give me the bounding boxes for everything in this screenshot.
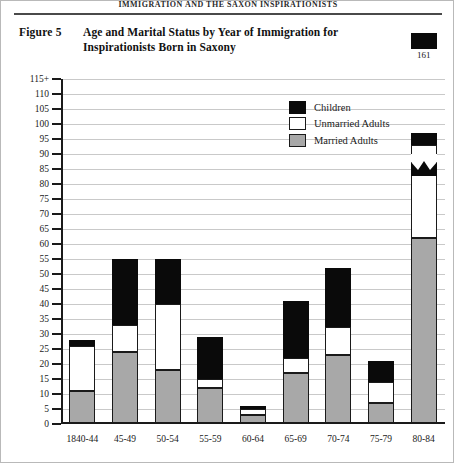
legend-item-unmarried: Unmarried Adults: [289, 116, 390, 133]
y-axis-tick-label: 55: [7, 254, 49, 264]
y-axis-tick: [52, 423, 61, 426]
y-axis-tick-label: 40: [7, 299, 49, 309]
y-axis-tick-label: 25: [7, 344, 49, 354]
y-axis-line: [61, 79, 63, 424]
bar-segment-unmarried: [69, 346, 95, 391]
y-axis-tick: [52, 393, 61, 396]
y-axis-tick: [52, 228, 61, 231]
y-axis-tick: [52, 363, 61, 366]
y-axis-tick-label: 10: [7, 389, 49, 399]
bar-segment-married: [283, 373, 309, 424]
bar-segment-married: [112, 352, 138, 424]
y-axis-tick-label: 100: [7, 119, 49, 129]
bar-column[interactable]: [240, 79, 266, 424]
bar-segment-married: [325, 355, 351, 424]
y-axis-tick: [52, 198, 61, 201]
y-axis-tick: [52, 288, 61, 291]
y-axis-tick: [52, 93, 61, 96]
x-axis-line: [61, 422, 445, 424]
x-axis-tick-label: 80-84: [390, 434, 454, 444]
y-axis-tick-label: 50: [7, 269, 49, 279]
bar-segment-married: [69, 391, 95, 424]
chart-legend: Children Unmarried Adults Married Adults: [289, 99, 390, 149]
y-axis-tick: [52, 183, 61, 186]
y-axis-tick-label: 95: [7, 134, 49, 144]
y-axis-tick: [52, 408, 61, 411]
y-axis-tick-label: 80: [7, 179, 49, 189]
bar-column[interactable]: [112, 79, 138, 424]
y-axis-tick: [52, 213, 61, 216]
running-head: IMMIGRATION AND THE SAXON INSPIRATIONIST…: [1, 0, 454, 10]
y-axis-tick: [52, 333, 61, 336]
bar-segment-children: [240, 406, 266, 409]
bar-segment-unmarried: [411, 145, 437, 238]
header-rule: [14, 13, 442, 15]
bar-segment-children: [155, 259, 181, 304]
legend-item-married: Married Adults: [289, 132, 390, 149]
y-axis-tick: [52, 378, 61, 381]
bar-segment-children: [69, 340, 95, 346]
legend-label-children: Children: [314, 102, 351, 113]
y-axis-tick: [52, 273, 61, 276]
legend-item-children: Children: [289, 99, 390, 116]
bar-segment-married: [197, 388, 223, 424]
legend-swatch-children-icon: [289, 101, 306, 114]
y-axis-tick-label: 90: [7, 149, 49, 159]
bar-segment-married: [368, 403, 394, 424]
y-axis-tick: [52, 153, 61, 156]
bar-segment-children: [325, 268, 351, 327]
y-axis-tick-label: 115+: [7, 74, 49, 84]
bar-segment-married: [411, 238, 437, 424]
y-axis-tick-label: 70: [7, 209, 49, 219]
bar-column[interactable]: 161: [411, 79, 437, 424]
bar-segment-married: [155, 370, 181, 424]
bar-segment-unmarried: [368, 382, 394, 403]
y-axis-tick: [52, 123, 61, 126]
y-axis-tick: [52, 138, 61, 141]
y-axis-tick-label: 20: [7, 359, 49, 369]
figure-page: IMMIGRATION AND THE SAXON INSPIRATIONIST…: [0, 0, 454, 463]
page-title: Age and Marital Status by Year of Immigr…: [83, 25, 363, 54]
y-axis-tick: [52, 168, 61, 171]
y-axis-tick-label: 110: [7, 89, 49, 99]
bar-segment-unmarried: [283, 358, 309, 373]
y-axis-tick-label: 30: [7, 329, 49, 339]
y-axis-tick: [52, 78, 61, 81]
bar-segment-unmarried: [112, 325, 138, 352]
bar-segment-unmarried: [155, 304, 181, 370]
y-axis-tick: [52, 348, 61, 351]
bar-segment-children: [112, 259, 138, 325]
y-axis-tick: [52, 303, 61, 306]
legend-swatch-unmarried-icon: [289, 117, 306, 130]
bar-segment-children: [411, 133, 437, 145]
y-axis-tick-label: 60: [7, 239, 49, 249]
bar-segment-unmarried: [197, 379, 223, 388]
bar-column[interactable]: [197, 79, 223, 424]
figure-label: Figure 5: [19, 26, 62, 38]
y-axis-tick-label: 0: [7, 419, 49, 429]
y-axis-tick-label: 15: [7, 374, 49, 384]
bar-column[interactable]: [69, 79, 95, 424]
bar-segment-children: [368, 361, 394, 382]
y-axis-tick: [52, 258, 61, 261]
y-axis-tick-label: 35: [7, 314, 49, 324]
y-axis-tick: [52, 318, 61, 321]
legend-label-unmarried: Unmarried Adults: [314, 118, 390, 129]
bar-column[interactable]: [155, 79, 181, 424]
bar-segment-unmarried: [325, 327, 351, 356]
y-axis-tick-label: 105: [7, 104, 49, 114]
legend-label-married: Married Adults: [314, 135, 378, 146]
bar-segment-children: [283, 301, 309, 358]
bar-top-cap: [411, 33, 437, 49]
y-axis-tick-label: 45: [7, 284, 49, 294]
bar-segment-unmarried: [240, 409, 266, 415]
y-axis-tick: [52, 243, 61, 246]
y-axis-tick-label: 75: [7, 194, 49, 204]
legend-swatch-married-icon: [289, 134, 306, 147]
y-axis-tick-label: 65: [7, 224, 49, 234]
bar-value-label: 161: [411, 50, 437, 60]
y-axis-tick-label: 85: [7, 164, 49, 174]
y-axis-tick-label: 5: [7, 404, 49, 414]
y-axis-tick: [52, 108, 61, 111]
bar-segment-children: [197, 337, 223, 379]
